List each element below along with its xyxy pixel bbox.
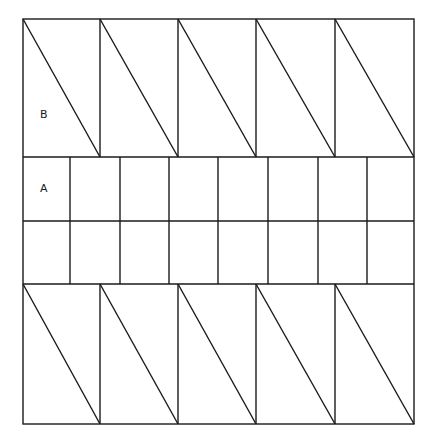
diagonal <box>256 19 335 157</box>
diagonal <box>23 19 100 157</box>
diagonal <box>100 284 178 424</box>
diagonal <box>100 19 178 157</box>
diagonal <box>178 19 256 157</box>
diagonal <box>335 19 414 157</box>
diagonal <box>335 284 414 424</box>
label-a: A <box>40 182 48 195</box>
diagonal <box>23 284 100 424</box>
tiling-diagram <box>0 0 434 445</box>
diagonal <box>256 284 335 424</box>
label-b: B <box>40 108 48 121</box>
diagram-lines <box>23 19 414 424</box>
diagonal <box>178 284 256 424</box>
